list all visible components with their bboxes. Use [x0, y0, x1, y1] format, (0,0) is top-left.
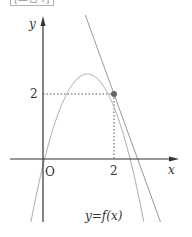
y-axis-arrow-icon [41, 16, 46, 26]
graph: y x O 2 2 y=f(x) [0, 0, 192, 237]
tangent-point [111, 91, 117, 97]
figure: [그림4] y x O 2 2 y=f(x) [0, 0, 192, 237]
parabola-curve [31, 74, 144, 222]
y-tick-label: 2 [30, 87, 38, 101]
x-tick-label: 2 [110, 164, 118, 178]
function-caption: y=f(x) [84, 209, 123, 223]
tangent-line [85, 15, 160, 222]
origin-label: O [45, 165, 55, 179]
x-axis-arrow-icon [169, 157, 179, 162]
x-axis-label: x [168, 163, 175, 177]
figure-label: [그림4] [10, 0, 54, 6]
y-axis-label: y [28, 17, 36, 31]
